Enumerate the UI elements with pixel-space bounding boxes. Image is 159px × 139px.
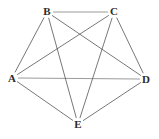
graph-figure: ABCDE xyxy=(0,0,159,139)
graph-edge-ac xyxy=(17,16,108,75)
graph-vertex-b: B xyxy=(42,6,51,17)
graph-vertex-d: D xyxy=(141,74,151,85)
graph-edge-be xyxy=(49,18,77,117)
graph-edge-ce xyxy=(80,18,112,118)
graph-edge-ab xyxy=(15,18,44,73)
graph-edge-de xyxy=(83,83,140,121)
graph-edge-cd xyxy=(117,18,143,73)
graph-edge-ad xyxy=(19,78,140,79)
graph-vertex-c: C xyxy=(109,6,119,17)
edge-layer xyxy=(15,12,143,120)
graph-vertex-a: A xyxy=(7,73,17,84)
graph-vertex-e: E xyxy=(73,119,82,130)
graph-edge-ae xyxy=(17,82,72,121)
